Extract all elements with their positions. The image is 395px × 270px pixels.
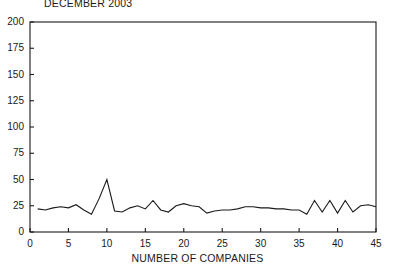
y-axis-ticks <box>30 22 34 232</box>
axes-frame <box>30 22 376 232</box>
chart-figure: DECEMBER 2003 0255075100125150175200 051… <box>0 0 395 270</box>
x-axis-ticks <box>30 228 376 232</box>
plot-area <box>0 0 395 270</box>
x-axis-label: NUMBER OF COMPANIES <box>0 252 395 264</box>
data-series-line <box>38 180 376 215</box>
